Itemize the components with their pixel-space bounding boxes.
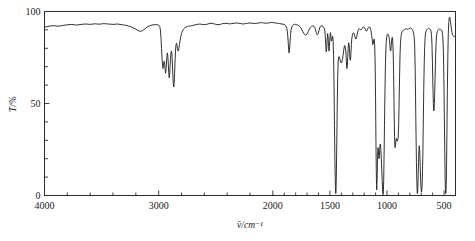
y-tick-label: 0 <box>36 190 41 201</box>
x-tick-label: 4000 <box>35 200 55 211</box>
x-axis-title: v̄/cm⁻¹ <box>237 220 263 230</box>
x-tick-label: 3000 <box>149 200 169 211</box>
y-tick-label: 100 <box>26 6 41 17</box>
x-tick-label: 1000 <box>377 200 397 211</box>
transmittance-curve <box>45 17 456 195</box>
y-axis-title: T/% <box>8 96 18 112</box>
x-tick-labels: 40003000200015001000500 <box>35 200 452 211</box>
spectrum-canvas: 40003000200015001000500 050100 v̄/cm⁻¹ T… <box>0 0 475 241</box>
y-tick-label: 50 <box>31 98 41 109</box>
ir-spectrum-figure: 40003000200015001000500 050100 v̄/cm⁻¹ T… <box>0 0 475 241</box>
y-tick-labels: 050100 <box>26 6 41 201</box>
x-tick-label: 500 <box>437 200 452 211</box>
x-tick-label: 2000 <box>263 200 283 211</box>
spectrum-trace <box>45 17 456 195</box>
x-tick-label: 1500 <box>320 200 340 211</box>
